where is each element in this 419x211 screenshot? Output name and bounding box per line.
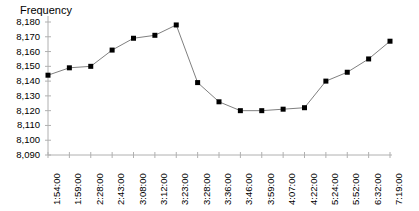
data-point-marker [88, 64, 93, 69]
data-point-marker [366, 56, 371, 61]
data-series-line [48, 25, 390, 111]
data-point-marker [302, 105, 307, 110]
data-point-marker [238, 108, 243, 113]
data-point-marker [217, 99, 222, 104]
data-point-marker [46, 73, 51, 78]
data-point-marker [345, 70, 350, 75]
data-point-marker [259, 108, 264, 113]
frequency-line-chart: Frequency 8,1808,1708,1608,1508,1408,130… [0, 0, 419, 211]
data-point-marker [323, 79, 328, 84]
data-point-marker [195, 80, 200, 85]
plot-area [0, 0, 419, 211]
data-point-marker [67, 65, 72, 70]
data-point-marker [110, 48, 115, 53]
data-point-marker [174, 22, 179, 27]
data-point-marker [281, 107, 286, 112]
data-point-marker [152, 33, 157, 38]
data-point-marker [131, 36, 136, 41]
data-point-marker [388, 39, 393, 44]
